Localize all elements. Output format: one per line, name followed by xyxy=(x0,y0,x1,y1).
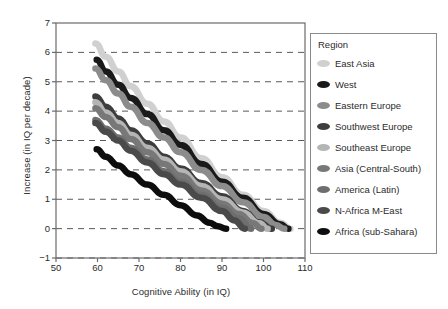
x-axis-tick-label: 100 xyxy=(244,262,284,273)
legend-item[interactable]: Eastern Europe xyxy=(317,95,436,116)
legend-item-label: Asia (Central-South) xyxy=(335,163,421,174)
legend-item-label: West xyxy=(335,79,356,90)
x-axis-tick-label: 60 xyxy=(78,262,118,273)
legend-item-label: Eastern Europe xyxy=(335,100,401,111)
y-axis-tick-label: 7 xyxy=(28,17,50,28)
legend-item-label: Africa (sub-Sahara) xyxy=(335,226,417,237)
legend-swatch-icon xyxy=(317,60,330,67)
y-axis-title: Increase (in IQ per decade) xyxy=(21,36,32,236)
legend-title: Region xyxy=(318,39,436,50)
legend-swatch-icon xyxy=(317,123,330,130)
legend-item[interactable]: Asia (Central-South) xyxy=(317,158,436,179)
x-axis-tick-label: 90 xyxy=(202,262,242,273)
legend-item-label: America (Latin) xyxy=(335,184,399,195)
legend-item[interactable]: Southeast Europe xyxy=(317,137,436,158)
legend-item-label: Southwest Europe xyxy=(335,121,413,132)
legend-swatch-icon xyxy=(317,165,330,172)
legend-swatch-icon xyxy=(317,102,330,109)
chart-figure: 76543210−1 5060708090100110 Increase (in… xyxy=(0,0,448,309)
legend-item-label: East Asia xyxy=(335,58,375,69)
legend-box: Region East AsiaWestEastern EuropeSouthw… xyxy=(310,33,437,254)
x-axis-tick-labels: 5060708090100110 xyxy=(0,262,448,278)
legend-item[interactable]: America (Latin) xyxy=(317,179,436,200)
legend-item-label: Southeast Europe xyxy=(335,142,411,153)
legend-swatch-icon xyxy=(317,228,330,235)
x-axis-tick-label: 50 xyxy=(36,262,76,273)
x-axis-tick-label: 80 xyxy=(161,262,201,273)
legend-swatch-icon xyxy=(317,81,330,88)
legend-item[interactable]: East Asia xyxy=(317,53,436,74)
legend-item[interactable]: N-Africa M-East xyxy=(317,200,436,221)
legend-swatch-icon xyxy=(317,144,330,151)
legend-items: East AsiaWestEastern EuropeSouthwest Eur… xyxy=(317,53,436,242)
x-axis-tick-label: 110 xyxy=(285,262,325,273)
legend-swatch-icon xyxy=(317,207,330,214)
x-axis-tick-label: 70 xyxy=(119,262,159,273)
legend-item[interactable]: Southwest Europe xyxy=(317,116,436,137)
legend-item-label: N-Africa M-East xyxy=(335,205,402,216)
legend-item[interactable]: Africa (sub-Sahara) xyxy=(317,221,436,242)
legend-item[interactable]: West xyxy=(317,74,436,95)
legend-swatch-icon xyxy=(317,186,330,193)
x-axis-title: Cognitive Ability (in IQ) xyxy=(56,286,306,297)
